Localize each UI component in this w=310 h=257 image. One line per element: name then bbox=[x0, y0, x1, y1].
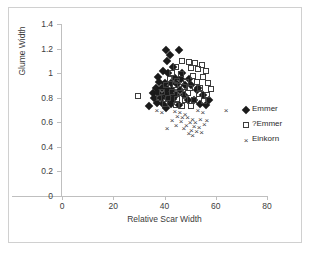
data-point-open-square bbox=[185, 90, 191, 96]
data-point-open-square bbox=[186, 59, 192, 65]
y-tick-mark bbox=[57, 147, 61, 148]
data-point-open-square bbox=[135, 93, 141, 99]
data-point-open-square bbox=[156, 95, 162, 101]
data-point-cross bbox=[223, 107, 230, 114]
y-tick-mark bbox=[57, 98, 61, 99]
data-point-open-square bbox=[177, 90, 183, 96]
y-axis-title: Glume Width bbox=[17, 0, 27, 111]
x-tick-label: 80 bbox=[247, 201, 287, 211]
legend-item-emmer[interactable]: ?Emmer bbox=[243, 119, 301, 131]
x-tick-label: 60 bbox=[196, 201, 236, 211]
legend-label: Emmer bbox=[252, 104, 278, 113]
data-point-open-square bbox=[205, 80, 211, 86]
legend-label: ?Emmer bbox=[252, 119, 282, 128]
data-point-open-square bbox=[178, 71, 184, 77]
legend-item-einkorn[interactable]: Einkorn bbox=[243, 134, 301, 146]
data-point-open-square bbox=[181, 84, 187, 90]
data-point-open-square bbox=[172, 82, 178, 88]
chart-legend: Emmer?EmmerEinkorn bbox=[243, 104, 301, 149]
data-point-open-square bbox=[169, 70, 175, 76]
y-tick-label: 0.8 bbox=[8, 93, 53, 103]
x-tick-mark bbox=[62, 196, 63, 200]
legend-key-open-square bbox=[243, 122, 249, 128]
data-point-cross bbox=[198, 129, 205, 136]
data-point-filled-diamond bbox=[174, 46, 182, 54]
y-tick-mark bbox=[57, 24, 61, 25]
data-point-open-square bbox=[197, 85, 203, 91]
y-tick-mark bbox=[57, 196, 61, 197]
data-point-cross bbox=[173, 121, 180, 128]
y-tick-label: 0.2 bbox=[8, 166, 53, 176]
data-point-open-square bbox=[167, 76, 173, 82]
x-tick-mark bbox=[267, 196, 268, 200]
y-tick-mark bbox=[57, 49, 61, 50]
y-tick-label: 0.4 bbox=[8, 142, 53, 152]
x-tick-mark bbox=[165, 196, 166, 200]
data-point-open-square bbox=[190, 73, 196, 79]
x-tick-label: 40 bbox=[145, 201, 185, 211]
x-tick-mark bbox=[113, 196, 114, 200]
data-point-open-square bbox=[200, 74, 206, 80]
data-point-open-square bbox=[173, 64, 179, 70]
legend-key-filled-diamond bbox=[242, 106, 250, 114]
data-point-open-square bbox=[174, 96, 180, 102]
data-point-cross bbox=[158, 109, 165, 116]
x-tick-mark bbox=[216, 196, 217, 200]
plot-area bbox=[62, 24, 267, 196]
data-point-open-square bbox=[194, 79, 200, 85]
data-point-open-square bbox=[204, 92, 210, 98]
x-tick-label: 20 bbox=[93, 201, 133, 211]
y-tick-label: 1 bbox=[8, 68, 53, 78]
data-point-open-square bbox=[191, 97, 197, 103]
data-point-open-square bbox=[179, 58, 185, 64]
data-point-open-square bbox=[208, 86, 214, 92]
data-point-open-square bbox=[195, 66, 201, 72]
data-point-open-square bbox=[196, 91, 202, 97]
data-point-cross bbox=[164, 125, 171, 132]
data-point-open-square bbox=[163, 82, 169, 88]
y-tick-label: 0 bbox=[8, 191, 53, 201]
data-point-open-square bbox=[182, 97, 188, 103]
data-point-open-square bbox=[203, 68, 209, 74]
y-tick-label: 0.6 bbox=[8, 117, 53, 127]
y-tick-mark bbox=[57, 122, 61, 123]
x-tick-label: 0 bbox=[42, 201, 82, 211]
data-point-open-square bbox=[162, 101, 168, 107]
legend-key-cross bbox=[243, 137, 250, 144]
legend-label: Einkorn bbox=[252, 134, 279, 143]
data-point-open-square bbox=[188, 65, 194, 71]
y-tick-mark bbox=[57, 73, 61, 74]
y-tick-label: 1.2 bbox=[8, 44, 53, 54]
scatter-plot-figure: 00.20.40.60.811.21.4 020406080 Glume Wid… bbox=[0, 0, 310, 257]
y-tick-mark bbox=[57, 171, 61, 172]
data-point-open-square bbox=[159, 89, 165, 95]
data-point-cross bbox=[189, 131, 196, 138]
data-point-open-square bbox=[165, 95, 171, 101]
data-point-open-square bbox=[169, 89, 175, 95]
x-axis-title: Relative Scar Width bbox=[62, 214, 267, 224]
data-point-open-square bbox=[201, 98, 207, 104]
y-tick-label: 1.4 bbox=[8, 19, 53, 29]
legend-item-emmer[interactable]: Emmer bbox=[243, 104, 301, 116]
